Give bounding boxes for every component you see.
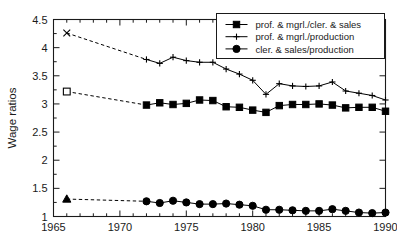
- data-point: [209, 201, 216, 208]
- legend: prof. & mgrl./cler. & salesprof. & mgrl.…: [217, 14, 385, 59]
- data-point: [276, 206, 283, 213]
- data-point: [143, 56, 149, 62]
- x-tick-label: 1975: [174, 221, 198, 233]
- data-point: [236, 104, 242, 110]
- y-tick-label: 2: [41, 154, 47, 166]
- y-tick-label: 1.5: [32, 182, 47, 194]
- data-point: [369, 210, 376, 217]
- data-point: [289, 83, 295, 89]
- series-connector-dashed: [67, 199, 147, 201]
- data-point: [196, 59, 202, 65]
- data-point: [143, 198, 150, 205]
- data-point: [289, 101, 295, 107]
- y-tick-label: 3: [41, 98, 47, 110]
- data-point: [342, 105, 348, 111]
- data-point: [303, 101, 309, 107]
- data-point: [236, 71, 242, 77]
- data-point: [183, 57, 189, 63]
- legend-label-2: cler. & sales/production: [256, 44, 354, 55]
- y-tick-label: 1: [41, 211, 47, 223]
- data-point: [170, 54, 176, 60]
- data-point: [316, 83, 322, 89]
- data-point: [262, 206, 269, 213]
- data-point: [356, 104, 362, 110]
- data-point: [249, 202, 256, 209]
- data-point: [156, 199, 163, 206]
- data-point: [316, 101, 322, 107]
- data-point: [157, 60, 163, 66]
- x-tick-label: 1980: [240, 221, 264, 233]
- y-tick-label: 4.5: [32, 14, 47, 26]
- data-point: [250, 107, 256, 113]
- legend-label-1: prof. & mgrl./production: [256, 31, 355, 42]
- data-point: [303, 83, 309, 89]
- data-point: [196, 97, 202, 103]
- data-point: [263, 109, 269, 115]
- data-point: [157, 100, 163, 106]
- y-axis-title: Wage ratios: [6, 87, 18, 148]
- data-point: [210, 97, 216, 103]
- data-point: [382, 108, 388, 114]
- data-point: [183, 199, 190, 206]
- data-point: [356, 90, 362, 96]
- y-tick-label: 4: [41, 42, 47, 54]
- chart-canvas: 19651970197519801985199011.522.533.544.5…: [0, 0, 397, 247]
- series-connector-dashed: [67, 92, 147, 106]
- chart-figure: 19651970197519801985199011.522.533.544.5…: [0, 0, 397, 247]
- data-point: [382, 97, 388, 103]
- data-point: [223, 66, 229, 72]
- data-point: [210, 59, 216, 65]
- x-tick-label: 1990: [373, 221, 397, 233]
- data-point: [342, 207, 349, 214]
- data-point: [170, 101, 176, 107]
- data-point: [196, 201, 203, 208]
- data-point: [369, 92, 375, 98]
- data-point: [329, 79, 335, 85]
- legend-marker: [233, 21, 239, 27]
- y-tick-label: 2.5: [32, 126, 47, 138]
- x-tick-label: 1985: [307, 221, 331, 233]
- data-point: [276, 102, 282, 108]
- data-point: [316, 207, 323, 214]
- data-point: [169, 197, 176, 204]
- data-point: [289, 207, 296, 214]
- x-tick-label: 1970: [108, 221, 132, 233]
- data-point: [329, 206, 336, 213]
- data-point: [63, 88, 70, 95]
- data-point: [302, 207, 309, 214]
- data-point: [369, 104, 375, 110]
- data-point: [223, 104, 229, 110]
- data-point: [236, 201, 243, 208]
- data-point: [343, 88, 349, 94]
- series-connector-dashed: [67, 33, 147, 59]
- data-point: [63, 30, 70, 37]
- series-0: [63, 88, 388, 115]
- legend-marker: [233, 45, 240, 52]
- data-point: [183, 100, 189, 106]
- data-point: [329, 102, 335, 108]
- legend-label-0: prof. & mgrl./cler. & sales: [256, 19, 362, 30]
- data-point: [382, 209, 389, 216]
- data-point: [63, 195, 71, 202]
- data-point: [143, 102, 149, 108]
- y-tick-label: 3.5: [32, 70, 47, 82]
- data-point: [223, 200, 230, 207]
- data-point: [355, 209, 362, 216]
